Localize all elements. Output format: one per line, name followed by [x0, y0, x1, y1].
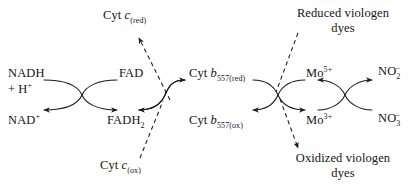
label-nad-plus: NAD+	[8, 113, 40, 128]
dashed-arrow-from-reduced-viologen	[276, 33, 298, 92]
label-mo-3-plus: Mo3+	[306, 113, 332, 128]
label-nitrite: NO2–	[378, 64, 399, 79]
dashed-arrow-to-cyt-c-red	[139, 38, 170, 100]
label-fadh2: FADH2	[107, 113, 145, 128]
oxidized-viologen-line1: Oxidized viologen	[280, 151, 406, 166]
arc-mo5-from-no3	[318, 80, 372, 110]
label-cyt-b557-reduced: Cyt b557(red)	[189, 66, 245, 81]
arc-nadh-to-fadh2	[44, 80, 117, 110]
label-cyt-c-oxidized: Cyt c(ox)	[100, 158, 141, 173]
label-cyt-b557-oxidized: Cyt b557(ox)	[189, 113, 243, 128]
label-h-plus: + H+	[8, 82, 32, 97]
reduced-viologen-line2: dyes	[280, 21, 406, 36]
reduced-viologen-line1: Reduced viologen	[280, 6, 406, 21]
label-mo-5-plus: Mo5+	[306, 66, 332, 81]
label-reduced-viologen-dyes: Reduced viologen dyes	[280, 6, 406, 37]
electron-transport-chain-diagram: NADH + H+ NAD+ FAD FADH2 Cyt c(red) Cyt …	[0, 0, 415, 190]
label-oxidized-viologen-dyes: Oxidized viologen dyes	[280, 151, 406, 182]
label-cyt-c-reduced: Cyt c(red)	[103, 8, 146, 23]
label-nitrate: NO3–	[378, 111, 399, 126]
label-fad: FAD	[119, 66, 143, 81]
label-nadh: NADH	[8, 66, 45, 81]
oxidized-viologen-line2: dyes	[280, 166, 406, 181]
arc-fad-to-nad	[44, 80, 117, 110]
